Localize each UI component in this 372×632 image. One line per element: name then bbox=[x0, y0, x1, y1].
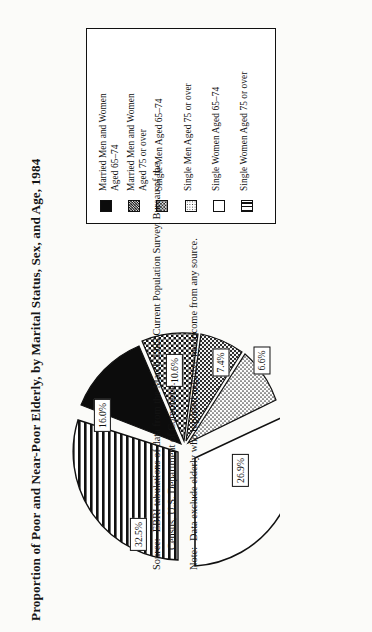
legend-swatch-fine-checker bbox=[128, 200, 140, 212]
legend-swatch-solid-black bbox=[100, 200, 112, 212]
note-text: Data exclude elderly who reported negati… bbox=[187, 100, 202, 541]
legend-item-married-65-74: Married Men and Women Aged 65–74 bbox=[98, 41, 124, 212]
slice-value-32-5: 32.5% bbox=[130, 518, 147, 551]
source-line-2-wrap: Census, U.S. Department of Commerce. bbox=[165, 100, 180, 570]
scanned-chart-page: Proportion of Poor and Near-Poor Elderly… bbox=[0, 0, 372, 632]
legend-item-label: Single Women Aged 75 or over bbox=[239, 72, 251, 191]
slice-value-6-6: 6.6% bbox=[253, 347, 270, 375]
source-line-2: Census, U.S. Department of Commerce. bbox=[166, 383, 177, 550]
note-label: Note: bbox=[187, 547, 202, 570]
legend-item-label: Married Men and Women Aged 65–74 bbox=[98, 93, 121, 191]
legend-item-label: Married Men and Women Aged 75 or over bbox=[126, 93, 149, 191]
legend-item-single-women-75-over: Single Women Aged 75 or over bbox=[239, 41, 265, 212]
note-row: Note: Data exclude elderly who reported … bbox=[187, 100, 202, 570]
source-row: Source: EBRI tabulations of data from th… bbox=[150, 100, 165, 570]
spacer bbox=[179, 100, 187, 570]
source-note-block: Source: EBRI tabulations of data from th… bbox=[150, 100, 226, 570]
legend-swatch-vertical-stripes bbox=[241, 200, 253, 212]
slice-value-16-0: 16.0% bbox=[94, 399, 111, 432]
slice-value-26-9: 26.9% bbox=[232, 454, 249, 487]
legend-item-married-75-over: Married Men and Women Aged 75 or over bbox=[126, 41, 152, 212]
source-label: Source: bbox=[150, 538, 165, 570]
source-line-1: EBRI tabulations of data from the March … bbox=[150, 100, 165, 532]
